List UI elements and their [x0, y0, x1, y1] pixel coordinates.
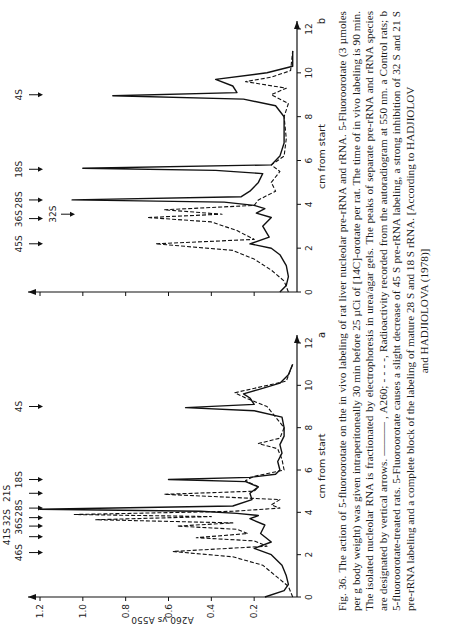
- panel-letter: b: [316, 18, 327, 24]
- down-arrow-icon: [38, 92, 43, 97]
- y-tick-label: 1.0: [78, 604, 88, 619]
- x-tick-label: 10: [304, 379, 314, 391]
- down-arrow-icon: [38, 241, 43, 246]
- chart-panel-a: 0246810120.20.40.60.81.01.2A260 vs A550c…: [2, 332, 327, 625]
- x-tick-label: 2: [304, 552, 314, 558]
- species-label: 46S: [14, 544, 24, 561]
- species-label: 28S: [14, 499, 24, 516]
- species-label: 32S: [48, 205, 58, 222]
- chart-panel-b: 024681012cm from startb45S36S32S28S18S4S: [14, 18, 327, 296]
- panel-letter: a: [316, 332, 327, 338]
- species-arrows: 46S41S36S32S28S21S18S4S: [2, 401, 43, 562]
- down-arrow-icon: [38, 404, 43, 409]
- series-a260-line: [72, 51, 293, 292]
- series-radioactivity-line: [147, 51, 293, 292]
- species-label: 4S: [14, 401, 24, 413]
- x-tick-label: 8: [304, 425, 314, 431]
- y-tick-label: 0.2: [249, 604, 259, 618]
- down-arrow-icon: [38, 216, 43, 221]
- y-tick-label: 0.8: [121, 604, 131, 619]
- y-tick-label: 1.2: [35, 604, 45, 618]
- species-label: 45S: [14, 235, 24, 252]
- y-tick-label: 0.4: [206, 604, 216, 619]
- x-tick-label: 8: [304, 114, 314, 120]
- x-tick-label: 6: [304, 467, 314, 473]
- figure-caption: Fig. 36. The action of 5-fluoroorotate o…: [336, 11, 431, 611]
- x-tick-label: 4: [304, 201, 314, 207]
- x-axis-label: cm from start: [316, 124, 327, 189]
- caption-citation: and HADJIOLOVA (1978)]: [418, 11, 432, 611]
- x-tick-label: 12: [304, 337, 314, 348]
- down-arrow-icon: [38, 515, 43, 520]
- x-tick-label: 4: [304, 509, 314, 515]
- x-axis-arrow-icon: [294, 335, 300, 343]
- y-axis-arrow-icon: [28, 289, 36, 295]
- down-arrow-icon: [38, 491, 43, 496]
- species-label: 18S: [14, 471, 24, 488]
- caption-text: The action of 5-fluoroorotate on the in …: [336, 11, 416, 611]
- species-label: 28S: [14, 191, 24, 208]
- x-axis-arrow-icon: [294, 21, 300, 29]
- x-axis-label: cm from start: [316, 433, 327, 498]
- species-label: 41S: [2, 528, 12, 545]
- x-tick-label: 6: [304, 157, 314, 163]
- down-arrow-icon: [38, 534, 43, 539]
- y-axis-arrow-icon: [28, 594, 36, 600]
- species-label: 36S: [14, 517, 24, 534]
- down-arrow-icon: [38, 524, 43, 529]
- figure-page: 0246810120.20.40.60.81.01.2A260 vs A550c…: [0, 0, 449, 625]
- series-a260-line: [40, 364, 293, 597]
- x-tick-label: 0: [304, 594, 314, 600]
- rotated-page: 0246810120.20.40.60.81.01.2A260 vs A550c…: [0, 0, 449, 625]
- species-label: 4S: [14, 89, 24, 101]
- x-tick-label: 10: [304, 67, 314, 79]
- x-tick-label: 2: [304, 245, 314, 251]
- species-label: 18S: [14, 160, 24, 177]
- down-arrow-icon: [38, 550, 43, 555]
- down-arrow-icon: [38, 477, 43, 482]
- figure-number: Fig. 36.: [336, 576, 348, 611]
- down-arrow-icon: [38, 167, 43, 172]
- x-tick-label: 12: [304, 23, 314, 34]
- down-arrow-icon: [70, 212, 75, 217]
- species-label: 21S: [2, 484, 12, 501]
- species-label: 32S: [2, 509, 12, 526]
- y-axis-label: A260 vs A550: [131, 615, 194, 625]
- x-tick-label: 0: [304, 289, 314, 295]
- figure-charts: 0246810120.20.40.60.81.01.2A260 vs A550c…: [0, 0, 336, 625]
- down-arrow-icon: [38, 197, 43, 202]
- species-label: 36S: [14, 210, 24, 227]
- species-arrows: 45S36S32S28S18S4S: [14, 89, 75, 253]
